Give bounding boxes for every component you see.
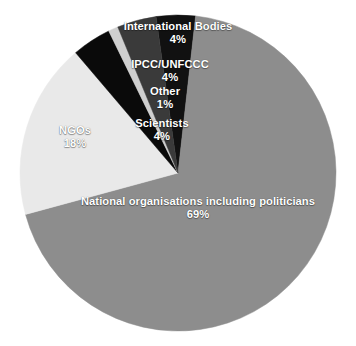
pie-chart: International Bodies 4% IPCC/UNFCCC 4% O… [0, 0, 356, 346]
pie-slice-group [20, 15, 336, 331]
pie-chart-canvas [0, 0, 356, 346]
